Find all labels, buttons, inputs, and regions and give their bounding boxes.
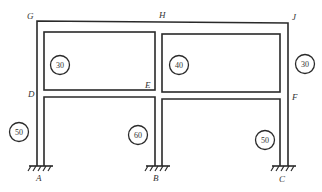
value-circle-upper-left: 30 [51,56,70,75]
node-label-f: F [291,92,298,102]
node-label-e: E [144,80,151,90]
value-circle-left-lower: 50 [10,123,29,142]
node-label-j: J [292,12,297,22]
node-label-g: G [27,11,34,21]
node-label-b: B [153,173,159,183]
value-circle-right-column: 30 [296,55,315,74]
node-label-h: H [158,10,166,20]
value-circle-right-lower: 50 [256,131,275,150]
node-label-c: C [279,174,286,184]
svg-text:40: 40 [175,61,183,70]
value-circle-upper-right: 40 [170,56,189,75]
support-a [28,166,53,171]
svg-text:50: 50 [15,128,23,137]
support-c [271,166,296,171]
svg-text:50: 50 [261,136,269,145]
value-circle-middle-lower: 60 [129,126,148,145]
node-label-a: A [35,173,42,183]
support-b [145,166,170,171]
frame-diagram: G H J D E F A B C 30 40 30 50 60 50 [0,0,322,192]
svg-text:30: 30 [301,60,309,69]
svg-text:60: 60 [134,131,142,140]
svg-text:30: 30 [56,61,64,70]
node-label-d: D [27,89,35,99]
